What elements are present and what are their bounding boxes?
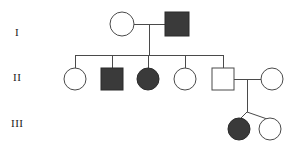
generation-3-symbols [228,118,281,140]
individual-i-2-male-affected[interactable] [165,12,189,36]
generation-label-i: I [15,27,19,38]
individual-i-1-female-unaffected[interactable] [110,12,134,36]
pedigree-chart: I II III [0,0,300,149]
individual-ii-1-female-unaffected[interactable] [64,68,86,90]
generation-label-iii: III [11,118,24,129]
individual-iii-2-female-unaffected[interactable] [259,118,281,140]
individual-ii-2-male-affected[interactable] [101,68,123,90]
individual-ii-4-female-unaffected[interactable] [174,68,196,90]
individual-ii-5-male-unaffected[interactable] [212,68,234,90]
generation-label-ii: II [13,72,21,83]
individual-ii-3-female-affected[interactable] [137,68,159,90]
individual-ii-6-female-unaffected[interactable] [261,68,283,90]
individual-iii-1-female-affected[interactable] [228,118,250,140]
pedigree-canvas [0,0,300,149]
